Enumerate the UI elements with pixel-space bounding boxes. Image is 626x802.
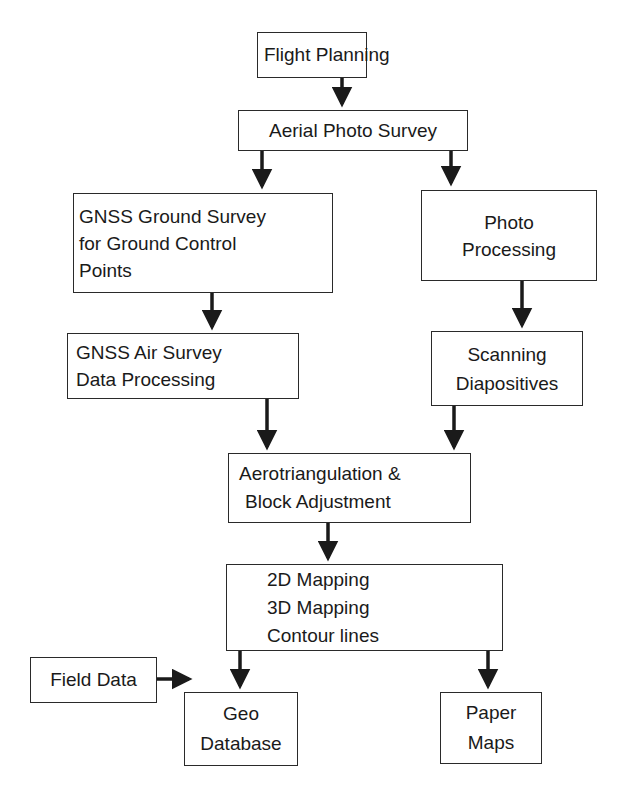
node-paper-maps: Paper Maps (440, 692, 542, 764)
node-label: Aerotriangulation & (239, 460, 464, 488)
node-label: 2D Mapping (267, 566, 496, 594)
node-label: Field Data (37, 668, 150, 692)
node-label: 3D Mapping (267, 594, 496, 622)
node-label: Flight Planning (264, 43, 360, 67)
node-label: Maps (447, 728, 535, 758)
node-label: GNSS Ground Survey (79, 203, 326, 230)
node-label: Paper (447, 698, 535, 728)
node-flight-planning: Flight Planning (257, 32, 367, 78)
node-label: Contour lines (267, 622, 496, 650)
node-gnss-ground-survey: GNSS Ground Survey for Ground Control Po… (73, 193, 333, 293)
node-label: Geo (191, 699, 291, 729)
node-label: Database (191, 729, 291, 759)
node-label: Photo (428, 209, 590, 236)
node-field-data: Field Data (30, 657, 157, 703)
node-photo-processing: Photo Processing (421, 190, 597, 281)
node-scanning-diapositives: Scanning Diapositives (431, 331, 583, 406)
node-label: for Ground Control (79, 230, 326, 257)
node-label: Data Processing (76, 366, 292, 393)
node-label: Scanning (438, 340, 576, 369)
node-geo-database: Geo Database (184, 692, 298, 766)
node-aerial-photo-survey: Aerial Photo Survey (238, 110, 468, 151)
node-mapping: 2D Mapping 3D Mapping Contour lines (226, 564, 503, 651)
node-label: Aerial Photo Survey (245, 119, 461, 143)
node-label: GNSS Air Survey (76, 339, 292, 366)
node-label: Processing (428, 236, 590, 263)
node-gnss-air-survey: GNSS Air Survey Data Processing (67, 333, 299, 399)
node-label: Block Adjustment (239, 488, 464, 516)
node-label: Points (79, 257, 326, 284)
node-aerotriangulation: Aerotriangulation & Block Adjustment (228, 453, 471, 523)
node-label: Diapositives (438, 369, 576, 398)
